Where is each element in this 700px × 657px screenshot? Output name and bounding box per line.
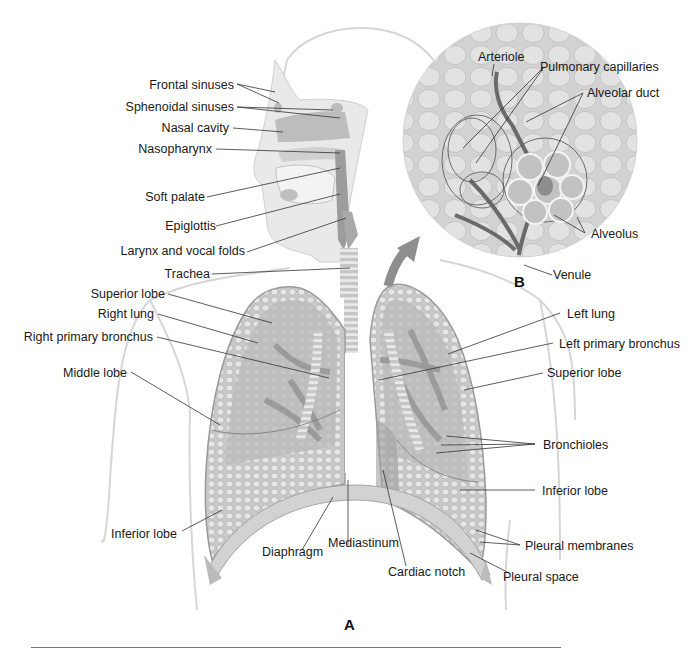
label-inferior-lobe-left: Inferior lobe [542, 484, 608, 498]
panel-label-b: B [514, 273, 525, 290]
panel-label-a: A [344, 616, 355, 633]
label-bronchioles: Bronchioles [543, 438, 608, 452]
respiratory-system-figure: Frontal sinuses Sphenoidal sinuses Nasal… [0, 0, 700, 657]
label-pleural-space: Pleural space [503, 570, 579, 584]
label-venule: Venule [553, 268, 591, 282]
label-epiglottis: Epiglottis [165, 219, 216, 233]
label-nasal-cavity: Nasal cavity [162, 121, 229, 135]
label-frontal-sinuses: Frontal sinuses [149, 78, 234, 92]
label-left-lung: Left lung [567, 307, 615, 321]
label-alveolar-duct: Alveolar duct [587, 86, 659, 100]
label-superior-lobe-right: Superior lobe [91, 287, 165, 301]
label-pleural-membranes: Pleural membranes [525, 539, 633, 553]
label-middle-lobe: Middle lobe [63, 366, 127, 380]
label-left-primary-bronchus: Left primary bronchus [559, 337, 680, 351]
label-cardiac-notch: Cardiac notch [388, 565, 465, 579]
label-mediastinum: Mediastinum [328, 536, 399, 550]
label-trachea: Trachea [165, 267, 210, 281]
label-diaphragm: Diaphragm [262, 545, 323, 559]
label-inferior-lobe-right: Inferior lobe [111, 527, 177, 541]
label-arteriole: Arteriole [478, 50, 525, 64]
bottom-rule-divider [31, 647, 561, 648]
label-larynx-vocal-folds: Larynx and vocal folds [121, 244, 245, 258]
label-right-primary-bronchus: Right primary bronchus [24, 330, 153, 344]
label-superior-lobe-left: Superior lobe [547, 366, 621, 380]
label-pulmonary-capillaries: Pulmonary capillaries [540, 60, 659, 74]
label-right-lung: Right lung [98, 307, 154, 321]
label-soft-palate: Soft palate [145, 190, 205, 204]
label-nasopharynx: Nasopharynx [138, 142, 212, 156]
label-sphenoidal-sinuses: Sphenoidal sinuses [126, 100, 234, 114]
label-alveolus: Alveolus [591, 227, 638, 241]
